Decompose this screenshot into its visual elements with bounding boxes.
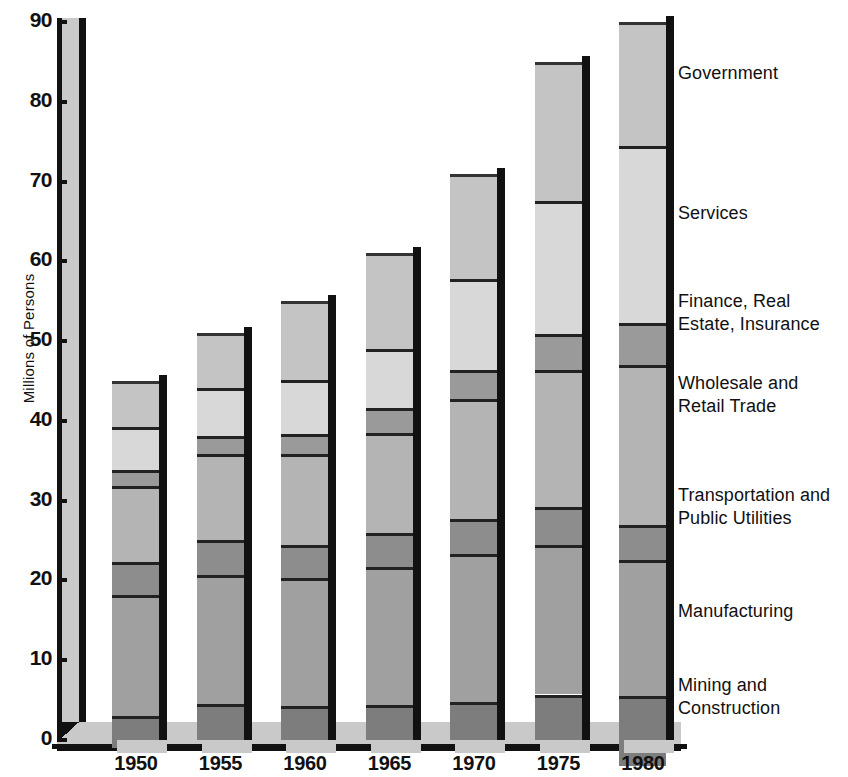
bar-1980[interactable] xyxy=(619,22,666,740)
segment-1965-services[interactable] xyxy=(366,349,413,408)
segment-1955-government[interactable] xyxy=(197,333,244,388)
segment-1955-manufacturing[interactable] xyxy=(197,575,244,704)
y-tick-label-90: 90 xyxy=(0,8,52,32)
y-tick-60 xyxy=(57,259,67,263)
segment-1975-finance-real-estate-insurance[interactable] xyxy=(535,334,582,370)
legend-item-government[interactable]: Government xyxy=(678,62,778,85)
segment-1950-finance-real-estate-insurance[interactable] xyxy=(112,470,159,485)
segment-1970-transportation-and-public-utilities[interactable] xyxy=(450,519,497,554)
segment-1980-manufacturing[interactable] xyxy=(619,560,666,696)
segment-1955-finance-real-estate-insurance[interactable] xyxy=(197,436,244,454)
bar-side-face xyxy=(497,168,505,740)
legend-item-mining-and[interactable]: Mining and Construction xyxy=(678,674,780,720)
segment-1980-services[interactable] xyxy=(619,146,666,323)
segment-1955-services[interactable] xyxy=(197,388,244,436)
bar-1955[interactable] xyxy=(197,333,244,740)
legend-item-transportation-and[interactable]: Transportation and Public Utilities xyxy=(678,484,830,530)
segment-1975-government[interactable] xyxy=(535,62,582,202)
x-tick-label-1980: 1980 xyxy=(598,752,688,775)
y-tick-40 xyxy=(57,419,67,423)
segment-1950-wholesale-and-retail-trade[interactable] xyxy=(112,486,159,563)
bar-side-face xyxy=(582,56,590,740)
segment-1975-transportation-and-public-utilities[interactable] xyxy=(535,507,582,544)
x-tick-label-1975: 1975 xyxy=(514,752,604,775)
segment-1970-wholesale-and-retail-trade[interactable] xyxy=(450,399,497,519)
y-tick-90 xyxy=(57,20,67,24)
bar-1970[interactable] xyxy=(450,174,497,740)
x-tick-label-1965: 1965 xyxy=(345,752,435,775)
segment-1965-manufacturing[interactable] xyxy=(366,567,413,705)
segment-1970-services[interactable] xyxy=(450,279,497,370)
bar-1950[interactable] xyxy=(112,381,159,740)
y-tick-label-0: 0 xyxy=(0,726,52,750)
x-tick-label-1950: 1950 xyxy=(91,752,181,775)
segment-1960-manufacturing[interactable] xyxy=(281,578,328,706)
y-tick-label-20: 20 xyxy=(0,566,52,590)
bar-side-face xyxy=(328,295,336,740)
segment-1955-mining-and-construction[interactable] xyxy=(197,704,244,740)
segment-1975-mining-and-construction[interactable] xyxy=(535,695,582,740)
y-tick-label-80: 80 xyxy=(0,88,52,112)
segment-1965-mining-and-construction[interactable] xyxy=(366,705,413,740)
legend-item-finance-real[interactable]: Finance, Real Estate, Insurance xyxy=(678,290,820,336)
segment-1980-government[interactable] xyxy=(619,22,666,146)
segment-1965-transportation-and-public-utilities[interactable] xyxy=(366,533,413,567)
bar-side-face xyxy=(666,16,674,740)
y-tick-0 xyxy=(57,738,67,742)
segment-1965-government[interactable] xyxy=(366,253,413,349)
bar-1960[interactable] xyxy=(281,301,328,740)
segment-1970-finance-real-estate-insurance[interactable] xyxy=(450,370,497,400)
segment-1955-wholesale-and-retail-trade[interactable] xyxy=(197,454,244,540)
legend-item-services[interactable]: Services xyxy=(678,202,748,225)
segment-1960-wholesale-and-retail-trade[interactable] xyxy=(281,454,328,545)
segment-1965-wholesale-and-retail-trade[interactable] xyxy=(366,433,413,534)
y-tick-30 xyxy=(57,499,67,503)
bar-side-face xyxy=(159,375,167,740)
segment-1965-finance-real-estate-insurance[interactable] xyxy=(366,408,413,433)
segment-1970-government[interactable] xyxy=(450,174,497,279)
y-tick-20 xyxy=(57,578,67,582)
segment-1970-mining-and-construction[interactable] xyxy=(450,702,497,739)
segment-1975-wholesale-and-retail-trade[interactable] xyxy=(535,370,582,507)
segment-1950-services[interactable] xyxy=(112,427,159,470)
segment-1980-wholesale-and-retail-trade[interactable] xyxy=(619,365,666,525)
segment-1960-services[interactable] xyxy=(281,380,328,433)
chart-canvas: 0102030405060708090 Millions of Persons … xyxy=(0,0,848,777)
y-tick-70 xyxy=(57,180,67,184)
segment-1950-government[interactable] xyxy=(112,381,159,427)
segment-1970-manufacturing[interactable] xyxy=(450,554,497,702)
x-tick-label-1955: 1955 xyxy=(176,752,266,775)
segment-1950-manufacturing[interactable] xyxy=(112,595,159,716)
y-axis-column xyxy=(57,18,79,740)
segment-1960-transportation-and-public-utilities[interactable] xyxy=(281,545,328,578)
bar-side-face xyxy=(413,247,421,740)
y-axis-title: Millions of Persons xyxy=(20,239,37,439)
legend-item-wholesale-and[interactable]: Wholesale and Retail Trade xyxy=(678,372,798,418)
y-tick-label-70: 70 xyxy=(0,168,52,192)
segment-1975-services[interactable] xyxy=(535,201,582,333)
x-tick-label-1960: 1960 xyxy=(260,752,350,775)
segment-1960-government[interactable] xyxy=(281,301,328,380)
segment-1955-transportation-and-public-utilities[interactable] xyxy=(197,540,244,575)
segment-1980-finance-real-estate-insurance[interactable] xyxy=(619,323,666,365)
y-tick-label-30: 30 xyxy=(0,487,52,511)
y-tick-50 xyxy=(57,339,67,343)
y-tick-10 xyxy=(57,658,67,662)
legend-item-manufacturing[interactable]: Manufacturing xyxy=(678,600,793,623)
segment-1950-transportation-and-public-utilities[interactable] xyxy=(112,562,159,595)
segment-1980-transportation-and-public-utilities[interactable] xyxy=(619,525,666,559)
segment-1975-manufacturing[interactable] xyxy=(535,545,582,695)
bar-1965[interactable] xyxy=(366,253,413,740)
y-tick-80 xyxy=(57,100,67,104)
bar-1975[interactable] xyxy=(535,62,582,740)
x-tick-label-1970: 1970 xyxy=(429,752,519,775)
segment-1960-mining-and-construction[interactable] xyxy=(281,706,328,740)
y-tick-label-10: 10 xyxy=(0,646,52,670)
segment-1960-finance-real-estate-insurance[interactable] xyxy=(281,434,328,455)
bar-side-face xyxy=(244,327,252,740)
